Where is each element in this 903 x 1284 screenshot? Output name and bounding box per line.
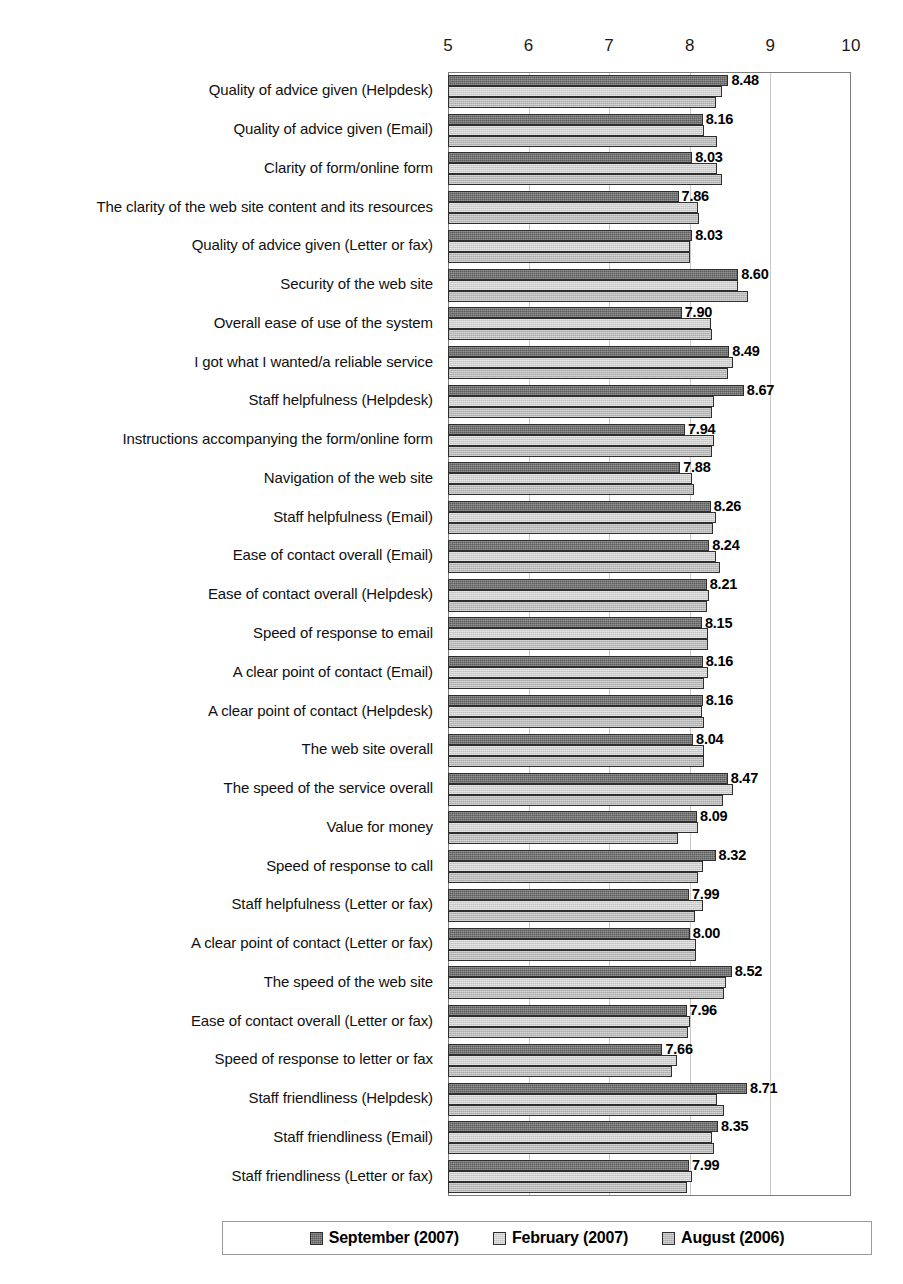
bar-value-label: 8.67 bbox=[747, 382, 774, 398]
bar-0 bbox=[448, 1083, 747, 1094]
bar-value-label: 8.21 bbox=[710, 576, 737, 592]
bar-1 bbox=[448, 939, 696, 950]
bar-group: 8.16 bbox=[448, 692, 851, 731]
bar-2 bbox=[448, 174, 722, 185]
bar-group: 8.21 bbox=[448, 576, 851, 615]
bar-1 bbox=[448, 745, 704, 756]
bar-value-label: 8.47 bbox=[731, 770, 758, 786]
bar-1 bbox=[448, 1171, 692, 1182]
bar-2 bbox=[448, 833, 678, 844]
x-tick-label-6: 6 bbox=[524, 36, 534, 56]
bar-1 bbox=[448, 1016, 690, 1027]
category-label: Staff friendliness (Email) bbox=[273, 1128, 433, 1145]
bar-value-label: 7.99 bbox=[692, 1157, 719, 1173]
bar-0 bbox=[448, 540, 709, 551]
bar-value-label: 7.90 bbox=[685, 304, 712, 320]
category-label: A clear point of contact (Letter or fax) bbox=[191, 934, 433, 951]
bar-value-label: 8.60 bbox=[741, 266, 768, 282]
bar-1 bbox=[448, 125, 704, 136]
bar-0 bbox=[448, 269, 738, 280]
bar-value-label: 8.03 bbox=[695, 149, 722, 165]
category-label: Speed of response to call bbox=[266, 857, 433, 874]
bar-group: 8.32 bbox=[448, 847, 851, 886]
legend-entry-2: August (2006) bbox=[662, 1229, 784, 1247]
bar-value-label: 7.96 bbox=[690, 1002, 717, 1018]
bar-1 bbox=[448, 667, 708, 678]
bar-group: 8.24 bbox=[448, 537, 851, 576]
x-tick-label-8: 8 bbox=[685, 36, 695, 56]
bar-2 bbox=[448, 988, 724, 999]
bar-2 bbox=[448, 407, 712, 418]
legend-label: February (2007) bbox=[512, 1229, 628, 1247]
bar-0 bbox=[448, 656, 703, 667]
bar-group: 8.16 bbox=[448, 653, 851, 692]
bar-1 bbox=[448, 1094, 717, 1105]
bar-2 bbox=[448, 97, 716, 108]
category-label: Overall ease of use of the system bbox=[214, 314, 433, 331]
bar-1 bbox=[448, 163, 717, 174]
bar-2 bbox=[448, 717, 704, 728]
bar-group: 7.88 bbox=[448, 460, 851, 499]
horizontal-bar-chart: 5678910 Quality of advice given (Helpdes… bbox=[0, 0, 903, 1284]
bar-0 bbox=[448, 966, 732, 977]
category-label: Instructions accompanying the form/onlin… bbox=[122, 430, 433, 447]
bar-1 bbox=[448, 435, 714, 446]
bar-0 bbox=[448, 889, 689, 900]
category-label: Staff helpfulness (Letter or fax) bbox=[231, 895, 433, 912]
bar-0 bbox=[448, 734, 693, 745]
bar-2 bbox=[448, 368, 728, 379]
category-label: Staff friendliness (Helpdesk) bbox=[249, 1089, 433, 1106]
bar-group: 8.26 bbox=[448, 498, 851, 537]
bar-0 bbox=[448, 424, 685, 435]
category-label: Value for money bbox=[326, 818, 433, 835]
category-label: A clear point of contact (Email) bbox=[233, 663, 433, 680]
bar-1 bbox=[448, 706, 702, 717]
bar-1 bbox=[448, 822, 698, 833]
bar-2 bbox=[448, 291, 748, 302]
x-tick-label-7: 7 bbox=[604, 36, 614, 56]
bar-2 bbox=[448, 484, 694, 495]
bar-group: 7.94 bbox=[448, 421, 851, 460]
bar-2 bbox=[448, 252, 690, 263]
bar-0 bbox=[448, 928, 690, 939]
bar-2 bbox=[448, 329, 712, 340]
bar-0 bbox=[448, 1160, 689, 1171]
bar-0 bbox=[448, 346, 729, 357]
bar-1 bbox=[448, 512, 716, 523]
bar-group: 8.47 bbox=[448, 770, 851, 809]
bar-group: 7.90 bbox=[448, 305, 851, 344]
x-tick-label-9: 9 bbox=[766, 36, 776, 56]
category-label: Ease of contact overall (Letter or fax) bbox=[191, 1012, 433, 1029]
bar-1 bbox=[448, 473, 692, 484]
bar-2 bbox=[448, 523, 713, 534]
bar-0 bbox=[448, 230, 692, 241]
bar-group: 8.00 bbox=[448, 925, 851, 964]
bar-group: 8.49 bbox=[448, 343, 851, 382]
bar-2 bbox=[448, 678, 704, 689]
bar-value-label: 7.99 bbox=[692, 886, 719, 902]
bar-2 bbox=[448, 1066, 672, 1077]
bar-1 bbox=[448, 280, 738, 291]
bar-group: 7.86 bbox=[448, 188, 851, 227]
category-label: Speed of response to email bbox=[253, 624, 433, 641]
bar-1 bbox=[448, 357, 733, 368]
bar-2 bbox=[448, 950, 696, 961]
bar-2 bbox=[448, 136, 717, 147]
bar-value-label: 8.09 bbox=[700, 808, 727, 824]
bar-value-label: 8.71 bbox=[750, 1080, 777, 1096]
bar-0 bbox=[448, 307, 682, 318]
bar-0 bbox=[448, 462, 680, 473]
bar-0 bbox=[448, 1121, 718, 1132]
category-label: The web site overall bbox=[302, 740, 433, 757]
category-label: The speed of the service overall bbox=[224, 779, 433, 796]
bar-1 bbox=[448, 861, 703, 872]
bar-value-label: 8.16 bbox=[706, 692, 733, 708]
bar-1 bbox=[448, 241, 690, 252]
bar-1 bbox=[448, 900, 703, 911]
bar-group: 7.96 bbox=[448, 1002, 851, 1041]
bar-value-label: 8.49 bbox=[732, 343, 759, 359]
bar-0 bbox=[448, 773, 728, 784]
bar-group: 8.71 bbox=[448, 1080, 851, 1119]
bar-0 bbox=[448, 579, 707, 590]
x-axis-tick-labels: 5678910 bbox=[0, 36, 903, 62]
